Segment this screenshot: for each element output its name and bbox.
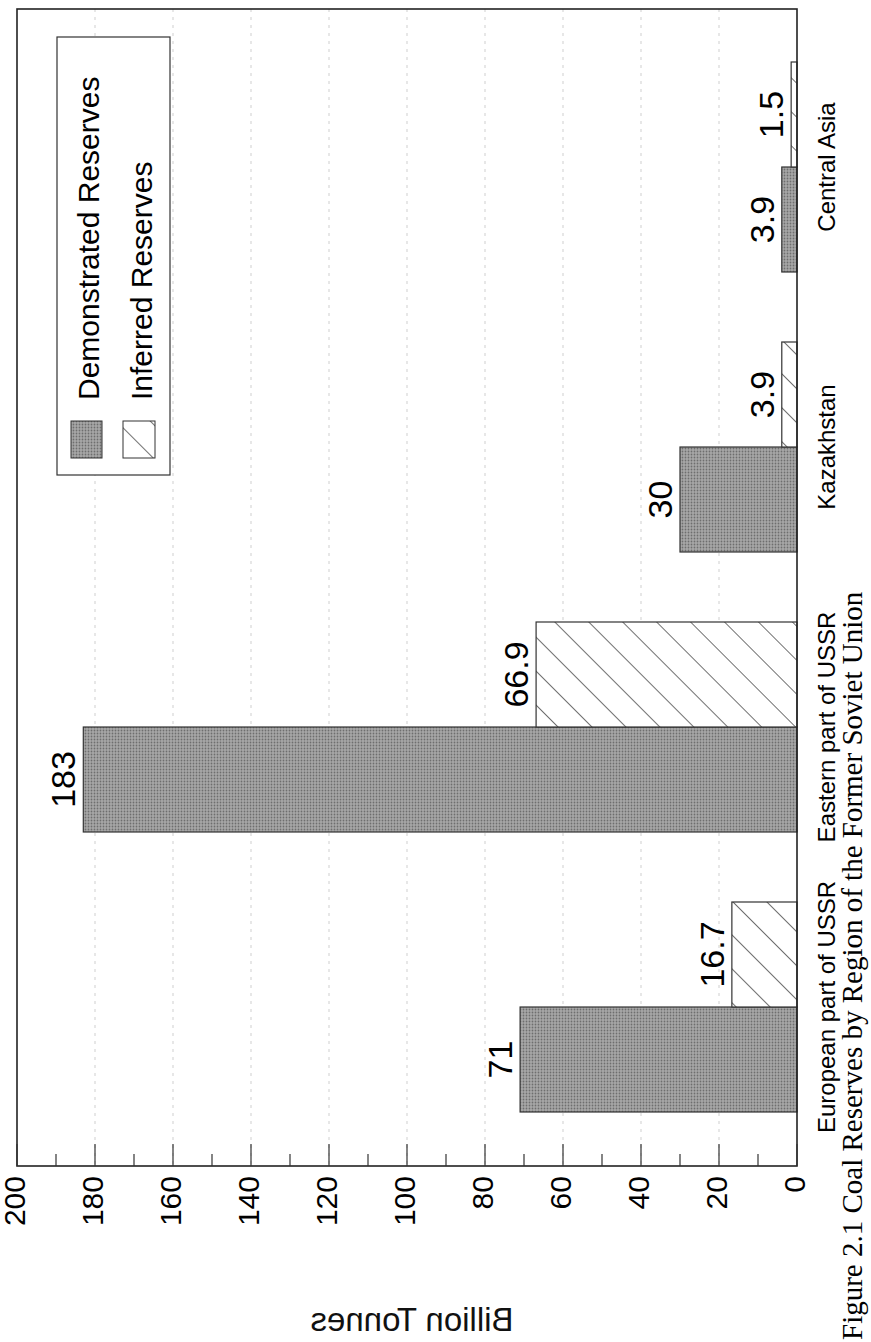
bars — [83, 62, 797, 1112]
legend-label-inferred: Inferred Reserves — [125, 162, 158, 400]
category-label: Central Asia — [813, 102, 840, 232]
bar-inferred — [732, 902, 797, 1007]
legend-swatch-inferred-icon — [123, 421, 155, 458]
tick-label: 20 — [700, 1176, 733, 1209]
value-label: 183 — [44, 751, 82, 808]
tick-label: 100 — [388, 1176, 421, 1226]
legend-swatch-demonstrated-icon — [71, 421, 102, 458]
bar-demonstrated — [782, 167, 797, 272]
tick-label: 40 — [622, 1176, 655, 1209]
tick-label: 120 — [310, 1176, 343, 1226]
legend: Demonstrated Reserves Inferred Reserves — [57, 37, 170, 475]
bar-inferred — [791, 62, 797, 167]
y-axis-label: Billion Tonnes — [283, 1300, 541, 1340]
tick-label: 140 — [232, 1176, 265, 1226]
value-label: 3.9 — [743, 371, 781, 418]
chart: 020406080100120140160180200 European par… — [0, 0, 871, 1342]
tick-label: 60 — [544, 1176, 577, 1209]
bar-demonstrated — [83, 727, 797, 832]
tick-label: 80 — [466, 1176, 499, 1209]
axis-ticks — [17, 1144, 797, 1166]
value-label: 71 — [481, 1041, 519, 1079]
bar-demonstrated — [680, 447, 797, 552]
tick-label: 180 — [76, 1176, 109, 1226]
gridlines — [95, 9, 719, 1166]
value-label: 3.9 — [743, 196, 781, 243]
bar-demonstrated — [520, 1007, 797, 1112]
value-label: 66.9 — [497, 641, 535, 707]
legend-label-demonstrated: Demonstrated Reserves — [72, 77, 105, 400]
category-label: Kazakhstan — [813, 384, 840, 509]
tick-label: 200 — [0, 1176, 31, 1226]
axis-tick-labels: 020406080100120140160180200 — [0, 1176, 811, 1226]
tick-label: 160 — [154, 1176, 187, 1226]
value-label: 30 — [641, 481, 679, 519]
value-label: 1.5 — [752, 91, 790, 138]
bar-inferred — [536, 622, 797, 727]
value-label: 16.7 — [693, 921, 731, 987]
bar-inferred — [782, 342, 797, 447]
figure-caption: Figure 2.1 Coal Reserves by Region of th… — [836, 591, 868, 1340]
tick-label: 0 — [778, 1176, 811, 1193]
